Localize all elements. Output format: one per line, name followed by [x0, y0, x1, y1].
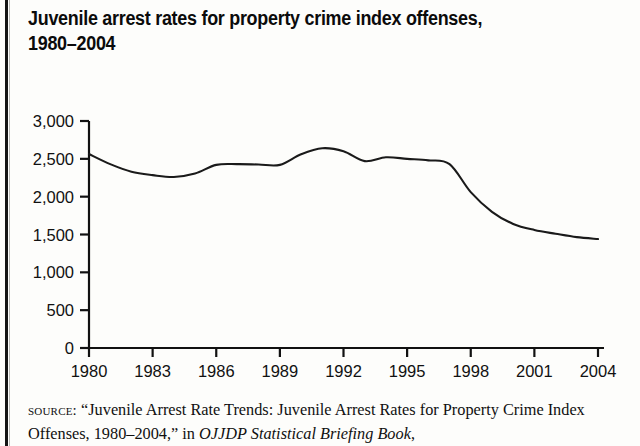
x-tick-label: 1986 — [198, 362, 235, 380]
source-text-2: , — [411, 424, 415, 443]
page-title: Juvenile arrest rates for property crime… — [28, 6, 573, 56]
line-chart: 05001,0001,5002,0002,5003,000 1980198319… — [0, 100, 640, 385]
x-tick-label: 1992 — [325, 362, 362, 380]
y-axis: 05001,0001,5002,0002,5003,000 — [33, 112, 89, 357]
x-tick-label: 2004 — [580, 362, 617, 380]
x-axis: 198019831986198919921995199820012004 — [71, 348, 617, 380]
chart-container: 05001,0001,5002,0002,5003,000 1980198319… — [0, 100, 640, 385]
title-line-2: 1980–2004 — [28, 32, 115, 54]
y-tick-label: 1,000 — [33, 263, 74, 281]
series-line-juvenile-property-arrest-rate — [89, 148, 598, 239]
source-publication: OJJDP Statistical Briefing Book — [199, 424, 411, 443]
data-series-line — [89, 148, 598, 239]
y-tick-label: 0 — [65, 339, 74, 357]
y-tick-label: 500 — [46, 301, 74, 319]
y-tick-label: 1,500 — [33, 226, 74, 244]
y-tick-label: 2,000 — [33, 188, 74, 206]
x-tick-label: 1980 — [71, 362, 108, 380]
x-tick-label: 1989 — [262, 362, 299, 380]
figure-page: Juvenile arrest rates for property crime… — [0, 0, 640, 446]
y-tick-label: 3,000 — [33, 112, 74, 130]
x-tick-label: 2001 — [516, 362, 553, 380]
title-line-1: Juvenile arrest rates for property crime… — [28, 7, 482, 29]
source-label: source: — [28, 402, 77, 418]
source-note: source: “Juvenile Arrest Rate Trends: Ju… — [28, 398, 628, 445]
x-tick-label: 1995 — [389, 362, 426, 380]
x-tick-label: 1983 — [134, 362, 171, 380]
x-tick-label: 1998 — [452, 362, 489, 380]
y-tick-label: 2,500 — [33, 150, 74, 168]
